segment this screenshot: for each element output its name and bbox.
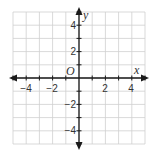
origin-label: O [66,64,75,78]
x-tick-label: −4 [20,83,32,94]
y-axis-down-arrow-icon [76,142,83,150]
y-axis-up-arrow-icon [76,7,83,15]
y-tick-label: 4 [70,20,76,31]
x-tick-label: 4 [128,83,134,94]
coordinate-plane: −4 −2 2 4 4 2 −2 −4 O x y [0,0,152,154]
x-axis-label: x [133,63,140,77]
x-tick-label: −2 [46,83,58,94]
y-axis-label: y [82,8,89,22]
y-tick-label: 2 [70,46,76,57]
x-tick-label: 2 [102,83,108,94]
y-tick-label: −4 [65,125,77,136]
y-tick-label: −2 [65,99,77,110]
